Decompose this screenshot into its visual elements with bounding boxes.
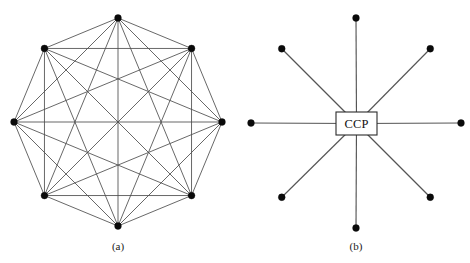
star-node [353,15,360,22]
mesh-edge [14,122,192,196]
mesh-node [188,192,195,199]
mesh-edge [44,48,118,226]
star-node [278,194,285,201]
star-spoke [356,124,357,229]
mesh-edge [118,18,192,196]
star-node [458,120,465,127]
mesh-edge [14,48,192,122]
panel-b-caption: (b) [350,240,363,253]
panel-a-group: (a) [11,15,226,253]
ccp-hub-label: CCP [344,117,368,131]
mesh-node [41,192,48,199]
star-node [278,45,285,52]
mesh-edge [118,48,192,226]
mesh-edge [44,18,118,196]
mesh-node [115,223,122,230]
mesh-node [41,45,48,52]
star-node [248,120,255,127]
mesh-node [115,15,122,22]
star-node [427,194,434,201]
star-node [353,225,360,232]
mesh-edge [44,48,222,122]
figure-container: (a) CCP (b) [0,0,470,263]
topology-figure-svg: (a) CCP (b) [0,0,470,263]
mesh-node [219,119,226,126]
star-spoke [356,18,357,124]
star-node [427,45,434,52]
panel-b-group: CCP (b) [248,15,465,253]
mesh-edge [44,122,222,196]
panel-a-caption: (a) [112,240,125,253]
mesh-node [11,119,18,126]
mesh-node [188,45,195,52]
